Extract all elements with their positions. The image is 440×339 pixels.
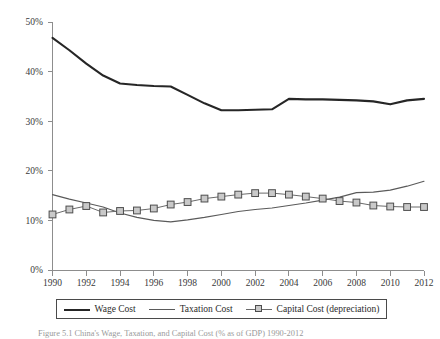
data-point-marker — [83, 203, 90, 210]
series-taxation-cost — [53, 181, 425, 222]
y-tick-label: 20% — [26, 166, 44, 176]
line-chart: 0%10%20%30%40%50% 1990199219941996199820… — [0, 0, 440, 339]
series-capital-cost-depreciation — [49, 190, 427, 218]
y-axis-ticks: 0%10%20%30%40%50% — [26, 17, 53, 275]
legend-label-taxation-cost: Taxation Cost — [180, 304, 233, 314]
figure-container: 0%10%20%30%40%50% 1990199219941996199820… — [0, 0, 440, 339]
data-point-marker — [252, 190, 259, 197]
x-tick-label: 2004 — [279, 278, 298, 288]
data-point-marker — [370, 202, 377, 209]
legend-label-capital-cost: Capital Cost (depreciation) — [277, 304, 380, 314]
legend-label-wage-cost: Wage Cost — [95, 304, 136, 314]
data-point-marker — [218, 193, 225, 200]
x-tick-label: 1996 — [144, 278, 163, 288]
chart-axes — [53, 22, 425, 271]
data-point-marker — [49, 211, 56, 218]
x-tick-label: 1998 — [178, 278, 197, 288]
x-axis-ticks: 1990199219941996199820002002200420062008… — [43, 271, 434, 289]
figure-caption: Figure 5.1 China's Wage, Taxation, and C… — [38, 329, 438, 338]
y-tick-label: 10% — [26, 216, 44, 226]
y-tick-label: 30% — [26, 117, 44, 127]
x-tick-label: 2012 — [415, 278, 434, 288]
data-point-marker — [150, 205, 157, 212]
legend-item-wage-cost: Wage Cost — [64, 304, 136, 314]
data-point-marker — [184, 199, 191, 206]
x-tick-label: 2000 — [212, 278, 231, 288]
x-tick-label: 2006 — [313, 278, 332, 288]
data-point-marker — [387, 203, 394, 210]
data-point-marker — [117, 208, 124, 215]
wage-cost-line-icon — [64, 305, 90, 314]
chart-series-layer — [49, 38, 427, 222]
data-point-marker — [404, 204, 411, 211]
y-tick-label: 50% — [26, 17, 44, 27]
series-line-taxation-cost — [53, 181, 425, 222]
data-point-marker — [100, 209, 107, 216]
data-point-marker — [269, 190, 276, 197]
data-point-marker — [66, 206, 73, 213]
x-tick-label: 1992 — [77, 278, 96, 288]
chart-legend: Wage Cost Taxation Cost Capital Cost (de… — [56, 299, 387, 319]
series-line-wage-cost — [53, 38, 425, 110]
data-point-marker — [134, 207, 141, 214]
data-point-marker — [201, 195, 208, 202]
y-tick-label: 40% — [26, 67, 44, 77]
data-point-marker — [421, 204, 428, 211]
data-point-marker — [353, 199, 360, 206]
x-tick-label: 2010 — [381, 278, 400, 288]
data-point-marker — [167, 201, 174, 208]
x-tick-label: 1994 — [111, 278, 130, 288]
legend-item-capital-cost: Capital Cost (depreciation) — [246, 304, 380, 314]
legend-item-taxation-cost: Taxation Cost — [149, 304, 233, 314]
data-point-marker — [336, 198, 343, 205]
series-wage-cost — [53, 38, 425, 110]
capital-cost-square-marker-icon — [246, 305, 272, 314]
x-tick-label: 2008 — [347, 278, 366, 288]
x-tick-label: 1990 — [43, 278, 62, 288]
data-point-marker — [235, 191, 242, 198]
x-tick-label: 2002 — [246, 278, 265, 288]
taxation-cost-line-icon — [149, 305, 175, 314]
data-point-marker — [286, 191, 293, 198]
data-point-marker — [302, 193, 309, 200]
data-point-marker — [319, 195, 326, 202]
y-tick-label: 0% — [30, 265, 43, 275]
